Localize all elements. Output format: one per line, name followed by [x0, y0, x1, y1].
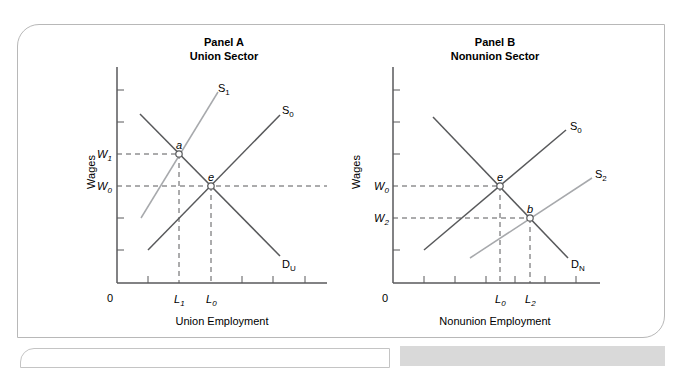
panel-a-x-axis-title: Union Employment	[176, 315, 269, 327]
panel-b-subtitle: Nonunion Sector	[451, 50, 540, 62]
panel-b-point-e	[497, 183, 503, 189]
panel-a-label-w0: W0	[97, 180, 112, 195]
panel-b-guides	[393, 186, 530, 283]
panel-b-point-b	[527, 215, 533, 221]
panel-a-label-s1: S1	[218, 82, 230, 97]
panel-a-origin: 0	[107, 292, 113, 304]
panel-a-y-axis-title: Wages	[85, 155, 97, 189]
panel-a-label-l0: L0	[206, 293, 217, 308]
panel-b-label-w0: W0	[374, 180, 389, 195]
panel-a-label-du: DU	[282, 258, 296, 273]
panel-b-label-b: b	[527, 203, 533, 215]
panel-b-label-s2: S2	[595, 168, 607, 183]
panel-b-y-ticks	[393, 90, 400, 250]
panel-b-label-w2: W2	[374, 212, 389, 227]
panel-a-point-e	[208, 183, 214, 189]
panel-b-label-l0: L0	[495, 293, 506, 308]
panel-a-label-l1: L1	[174, 293, 185, 308]
panel-b-label-s0: S0	[570, 120, 582, 135]
panel-b-y-axis-title: Wages	[350, 155, 362, 189]
panel-b-label-dn: DN	[571, 258, 585, 273]
panel-b-title: Panel B	[475, 36, 515, 48]
panel-b-x-axis-title: Nonunion Employment	[439, 315, 550, 327]
panel-a-subtitle: Union Sector	[190, 50, 259, 62]
panel-b: Panel B Nonunion Sector	[350, 36, 607, 327]
panel-a-title: Panel A	[204, 36, 244, 48]
panel-a-x-ticks	[148, 276, 305, 283]
panel-a-label-e: e	[208, 171, 214, 183]
panel-b-origin: 0	[382, 292, 388, 304]
panel-a: Panel A Union Sector	[85, 36, 327, 327]
panel-b-supply-s0	[424, 130, 566, 250]
panel-a-label-w1: W1	[97, 148, 112, 163]
panel-a-label-a: a	[176, 139, 182, 151]
panel-b-label-l2: L2	[525, 293, 536, 308]
panel-a-y-ticks	[117, 90, 124, 250]
panel-b-label-e: e	[497, 171, 503, 183]
panel-a-point-a	[176, 151, 182, 157]
panel-a-label-s0: S0	[282, 104, 294, 119]
